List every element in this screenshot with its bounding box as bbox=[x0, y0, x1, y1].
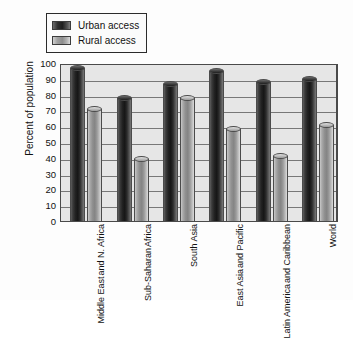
y-axis-tick-label: 70 bbox=[45, 106, 56, 116]
y-axis-tick-labels: 0102030405060708090100 bbox=[30, 64, 56, 222]
y-axis-tick-label: 90 bbox=[45, 75, 56, 85]
bar-cap bbox=[117, 95, 132, 101]
x-axis-category-label-line: South Asia bbox=[189, 224, 199, 267]
x-axis-category-label-line: Sub-Saharan bbox=[143, 248, 153, 301]
x-axis-category-label-line: Middle East bbox=[96, 277, 106, 324]
bar-urban bbox=[70, 68, 85, 221]
x-axis-category-label: South Asia bbox=[189, 224, 211, 300]
bar-series-container bbox=[61, 65, 336, 221]
y-axis-tick-label: 20 bbox=[45, 185, 56, 195]
bar-cap bbox=[87, 106, 102, 112]
legend-swatch-urban-icon bbox=[52, 21, 71, 30]
bar-rural bbox=[273, 156, 288, 221]
bar-cap bbox=[70, 65, 85, 71]
bar-cap bbox=[256, 79, 271, 85]
bar-cap bbox=[180, 95, 195, 101]
bar-rural bbox=[319, 125, 334, 221]
legend-item-urban: Urban access bbox=[52, 18, 139, 33]
x-axis-category-label: World bbox=[328, 224, 350, 300]
x-axis-category-label: Sub-SaharanAfrica bbox=[143, 224, 165, 300]
bar-group bbox=[70, 65, 102, 221]
bar-group bbox=[302, 65, 334, 221]
bar-cap bbox=[209, 68, 224, 74]
bar-rural bbox=[226, 129, 241, 221]
bar-group bbox=[209, 65, 241, 221]
y-axis-tick-label: 40 bbox=[45, 154, 56, 164]
bar-cap bbox=[163, 81, 178, 87]
bar-cap bbox=[273, 153, 288, 159]
x-axis-category-label-line: and N. Africa bbox=[96, 224, 106, 276]
bar-group bbox=[163, 65, 195, 221]
bar-urban bbox=[163, 84, 178, 221]
x-axis-category-label: East Asiaand Pacific bbox=[235, 224, 257, 300]
bar-cap bbox=[226, 126, 241, 132]
plot-area bbox=[60, 64, 338, 222]
x-axis-category-label: Latin Americaand Caribbean bbox=[282, 224, 304, 300]
x-axis-category-label-line: World bbox=[328, 224, 338, 247]
x-axis-category-label-line: Latin America bbox=[282, 284, 292, 339]
legend-label-urban: Urban access bbox=[78, 20, 139, 31]
legend-item-rural: Rural access bbox=[52, 33, 139, 48]
chart-legend: Urban access Rural access bbox=[46, 13, 147, 53]
bar-urban bbox=[256, 82, 271, 221]
x-axis-category-labels: Middle Eastand N. AfricaSub-SaharanAfric… bbox=[60, 224, 338, 300]
bar-rural bbox=[134, 159, 149, 221]
x-axis-category-label-line: and Pacific bbox=[235, 224, 245, 268]
bar-group bbox=[256, 65, 288, 221]
bar-urban bbox=[302, 79, 317, 221]
y-axis-tick-label: 80 bbox=[45, 91, 56, 101]
bar-group bbox=[117, 65, 149, 221]
bar-rural bbox=[180, 98, 195, 221]
bar-cap bbox=[319, 122, 334, 128]
bar-cap bbox=[134, 156, 149, 162]
x-axis-category-label-line: and Caribbean bbox=[282, 224, 292, 283]
x-axis-category-label: Middle Eastand N. Africa bbox=[96, 224, 118, 300]
x-axis-category-label-line: Africa bbox=[143, 224, 153, 247]
legend-label-rural: Rural access bbox=[78, 35, 136, 46]
bar-rural bbox=[87, 109, 102, 221]
y-axis-tick-label: 0 bbox=[51, 217, 56, 227]
bar-urban bbox=[117, 98, 132, 221]
y-axis-tick-label: 60 bbox=[45, 122, 56, 132]
y-axis-tick-label: 30 bbox=[45, 170, 56, 180]
bar-urban bbox=[209, 71, 224, 221]
x-axis-category-label-line: East Asia bbox=[235, 269, 245, 307]
y-axis-tick-label: 50 bbox=[45, 138, 56, 148]
y-axis-tick-label: 10 bbox=[45, 201, 56, 211]
bar-cap bbox=[302, 76, 317, 82]
y-axis-tick-label: 100 bbox=[40, 59, 56, 69]
legend-swatch-rural-icon bbox=[52, 36, 71, 45]
